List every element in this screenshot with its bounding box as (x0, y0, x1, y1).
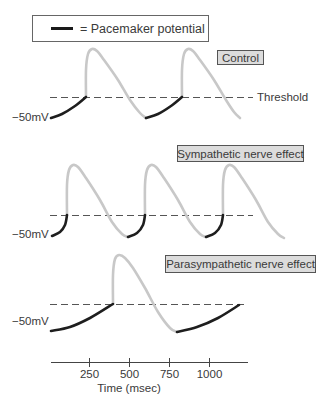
pacemaker-diagram: = Pacemaker potential Threshold−50mVCont… (0, 0, 328, 406)
x-axis: 2505007501000Time (msec) (51, 358, 248, 394)
voltage-label: −50mV (12, 315, 49, 327)
pacemaker-potential-trace (51, 304, 113, 331)
action-potential-trace (67, 165, 128, 237)
x-axis-title: Time (msec) (97, 382, 161, 394)
x-tick-label: 1000 (197, 368, 223, 380)
panel-title: Parasympathetic nerve effect (166, 258, 316, 270)
legend: = Pacemaker potential (33, 16, 209, 42)
legend-label: = Pacemaker potential (80, 22, 205, 36)
x-tick-label: 750 (160, 368, 179, 380)
pacemaker-potential-trace (52, 215, 67, 236)
action-potential-trace (86, 49, 146, 118)
pacemaker-potential-trace (128, 215, 145, 237)
x-tick-label: 500 (120, 368, 139, 380)
pacemaker-potential-trace (51, 97, 86, 118)
panel-parasympathetic-nerve-effect: −50mVParasympathetic nerve effect (12, 255, 316, 332)
panel-title: Sympathetic nerve effect (177, 148, 304, 160)
action-potential-trace (145, 165, 206, 237)
panel-title: Control (222, 52, 259, 64)
panel-sympathetic-nerve-effect: −50mVSympathetic nerve effect (12, 146, 304, 241)
threshold-label: Threshold (257, 91, 308, 103)
x-tick-label: 250 (80, 368, 99, 380)
panel-control: Threshold−50mVControl (12, 49, 308, 123)
voltage-label: −50mV (12, 111, 49, 123)
voltage-label: −50mV (12, 228, 49, 240)
pacemaker-potential-trace (177, 305, 239, 332)
pacemaker-potential-trace (146, 97, 182, 118)
panels: Threshold−50mVControl−50mVSympathetic ne… (12, 49, 316, 332)
action-potential-trace (223, 165, 284, 238)
pacemaker-potential-trace (206, 215, 223, 237)
